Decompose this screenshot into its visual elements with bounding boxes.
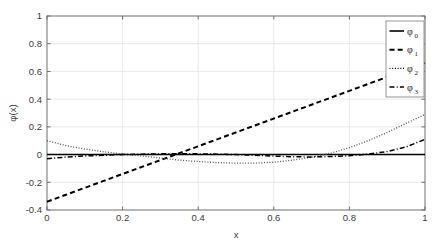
y-tick-label: -0.4 (26, 204, 42, 215)
legend-subscript-1: 1 (415, 50, 419, 58)
y-tick-label: 0.6 (29, 66, 42, 77)
chart-plot: 00.20.40.60.81 -0.4-0.200.20.40.60.81 φ0… (0, 0, 445, 247)
legend-subscript-0: 0 (415, 32, 419, 40)
x-axis-label: x (234, 229, 239, 240)
legend-subscript-3: 3 (415, 88, 419, 96)
x-tick-label: 0.4 (192, 212, 205, 223)
y-axis-label: φ(x) (7, 104, 18, 121)
legend-label-0: φ (407, 26, 413, 37)
legend-box[interactable] (386, 21, 424, 97)
x-tick-label: 0.6 (267, 212, 280, 223)
y-tick-label: 1 (37, 10, 42, 21)
y-tick-label: 0.2 (29, 121, 42, 132)
legend-label-1: φ (407, 44, 413, 55)
x-tick-label: 0 (44, 212, 49, 223)
legend-label-2: φ (407, 63, 413, 74)
x-tick-label: 0.2 (116, 212, 129, 223)
legend-subscript-2: 2 (415, 69, 419, 77)
y-tick-label: 0.8 (29, 38, 42, 49)
legend-label-3: φ (407, 82, 413, 93)
x-tick-label: 0.8 (343, 212, 356, 223)
y-tick-label: 0.4 (29, 94, 42, 105)
y-tick-label: -0.2 (26, 177, 42, 188)
figure-canvas: 00.20.40.60.81 -0.4-0.200.20.40.60.81 φ0… (0, 0, 445, 247)
chart-legend[interactable]: φ0φ1φ2φ3 (386, 21, 424, 97)
y-tick-label: 0 (37, 149, 42, 160)
x-tick-label: 1 (422, 212, 427, 223)
